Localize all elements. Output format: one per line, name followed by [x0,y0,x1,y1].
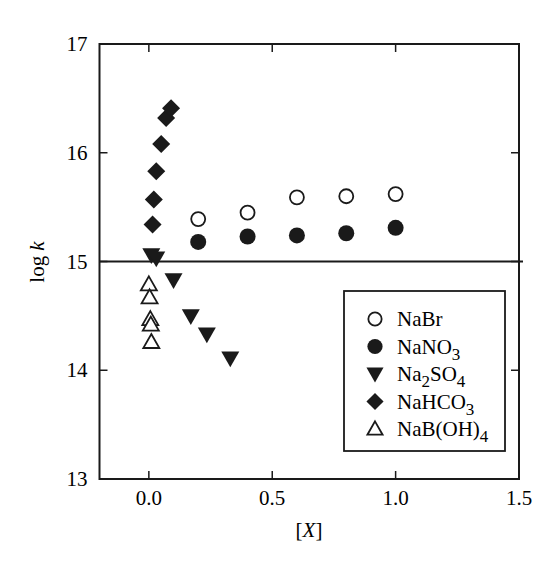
open-triangle-up-marker [141,276,157,290]
filled-diamond-marker [144,216,162,234]
series-nabr [191,187,402,226]
series-na2so4 [142,248,239,367]
filled-diamond-marker [145,191,163,209]
open-circle-marker [389,187,403,201]
series-nahco3 [144,99,181,233]
open-circle-marker [241,206,255,220]
filled-circle-marker [289,227,305,243]
filled-triangle-down-marker [221,352,239,368]
open-triangle-up-marker [143,334,159,348]
filled-circle-marker [240,228,256,244]
open-circle-marker [339,189,353,203]
y-tick-label: 13 [67,467,88,491]
filled-circle-marker [388,220,404,236]
y-tick-label: 16 [67,141,88,165]
scatter-chart: 0.00.51.01.51314151617 NaBrNaNO3Na2SO4Na… [0,0,554,564]
y-tick-label: 15 [67,250,88,274]
filled-triangle-down-marker [182,309,200,325]
open-circle-marker [368,312,381,325]
x-tick-label: 1.5 [506,486,532,510]
filled-triangle-down-marker [198,328,216,344]
filled-circle-marker [367,339,382,354]
legend: NaBrNaNO3Na2SO4NaHCO3NaB(OH)4 [344,291,505,451]
open-circle-marker [290,190,304,204]
open-triangle-up-marker [142,289,158,303]
filled-diamond-marker [152,135,170,153]
filled-circle-marker [338,225,354,241]
filled-circle-marker [190,234,206,250]
series-nano3 [190,220,403,250]
y-tick-label: 17 [67,32,88,56]
filled-diamond-marker [147,162,165,180]
x-tick-label: 1.0 [382,486,408,510]
series-nab-oh-4 [141,276,159,348]
legend-label: NaBr [397,307,443,331]
x-tick-label: 0.5 [259,486,285,510]
x-tick-label: 0.0 [136,486,162,510]
y-axis-label: log k [25,241,49,283]
y-tick-label: 14 [67,358,89,382]
open-circle-marker [191,212,205,226]
filled-triangle-down-marker [165,273,183,289]
x-axis-label: [X] [296,518,323,542]
